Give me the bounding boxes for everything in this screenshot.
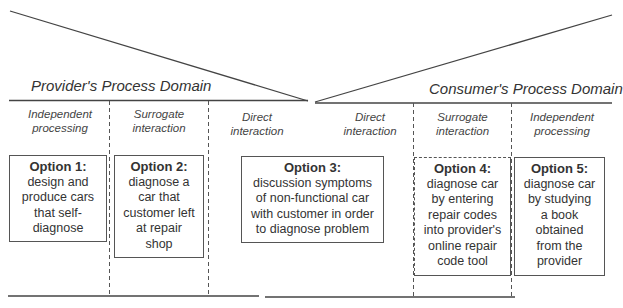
label-line: processing: [512, 124, 612, 138]
option-title: Option 5:: [515, 161, 604, 177]
option-line: code tool: [415, 254, 510, 270]
label-line: interaction: [110, 121, 208, 135]
option-line: diagnose a: [115, 175, 203, 191]
label-line: interaction: [330, 124, 410, 138]
option-line: by entering: [415, 192, 510, 208]
consumer-col-independent: Independent processing: [512, 110, 612, 138]
option-line: at repair: [115, 221, 203, 237]
option-line: of non-functional car: [242, 191, 383, 207]
option-line: obtained: [515, 223, 604, 239]
option-line: to diagnose problem: [242, 222, 383, 238]
label-line: Surrogate: [414, 110, 511, 124]
option-line: that self-: [10, 206, 106, 222]
option-4-box: Option 4: diagnose car by entering repai…: [414, 157, 511, 276]
label-line: Surrogate: [110, 107, 208, 121]
consumer-domain-title: Consumer's Process Domain: [429, 80, 623, 97]
option-line: diagnose car: [515, 177, 604, 193]
provider-col-independent: Independent processing: [10, 107, 110, 135]
option-2-box: Option 2: diagnose a car that customer l…: [114, 155, 204, 258]
label-line: Direct: [212, 110, 302, 124]
option-line: online repair: [415, 239, 510, 255]
provider-col-direct: Direct interaction: [212, 110, 302, 138]
option-title: Option 2:: [115, 159, 203, 175]
label-line: Direct: [330, 110, 410, 124]
label-line: Independent: [10, 107, 110, 121]
option-line: customer left: [115, 206, 203, 222]
option-line: from the: [515, 239, 604, 255]
option-3-box: Option 3: discussion symptoms of non-fun…: [241, 156, 384, 243]
provider-col-surrogate: Surrogate interaction: [110, 107, 208, 135]
option-line: provider: [515, 254, 604, 270]
option-line: diagnose: [10, 221, 106, 237]
option-line: car that: [115, 190, 203, 206]
option-title: Option 4:: [415, 161, 510, 177]
option-line: by studying: [515, 192, 604, 208]
option-line: diagnose car: [415, 177, 510, 193]
option-line: discussion symptoms: [242, 176, 383, 192]
consumer-col-surrogate: Surrogate interaction: [414, 110, 511, 138]
option-5-box: Option 5: diagnose car by studying a boo…: [514, 157, 605, 276]
label-line: interaction: [414, 124, 511, 138]
option-line: a book: [515, 208, 604, 224]
label-line: processing: [10, 121, 110, 135]
option-line: produce cars: [10, 190, 106, 206]
option-line: design and: [10, 175, 106, 191]
option-line: with customer in order: [242, 207, 383, 223]
provider-domain-title: Provider's Process Domain: [31, 77, 211, 94]
option-title: Option 3:: [242, 160, 383, 176]
option-title: Option 1:: [10, 159, 106, 175]
option-line: shop: [115, 237, 203, 253]
label-line: Independent: [512, 110, 612, 124]
consumer-col-direct: Direct interaction: [330, 110, 410, 138]
option-1-box: Option 1: design and produce cars that s…: [9, 155, 107, 242]
option-line: into provider's: [415, 223, 510, 239]
label-line: interaction: [212, 124, 302, 138]
option-line: repair codes: [415, 208, 510, 224]
